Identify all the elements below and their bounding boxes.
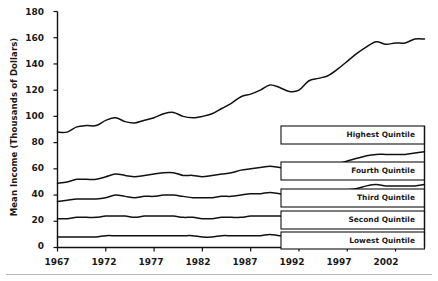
y-tick-label-160: 160 (14, 34, 44, 43)
x-tick-label-2002: 2002 (366, 258, 406, 267)
x-tick-label-1967: 1967 (37, 258, 77, 267)
y-tick-label-120: 120 (14, 86, 44, 95)
x-tick-label-1972: 1972 (84, 258, 124, 267)
footer-divider (6, 274, 432, 275)
x-tick-label-1992: 1992 (272, 258, 312, 267)
y-tick-label-0: 0 (14, 242, 44, 251)
income-quintiles-line-chart: Mean Income (Thousands of Dollars) 180 1… (0, 0, 438, 281)
series-label-lowest-quintile: Lowest Quintile (285, 236, 415, 245)
x-tick-label-1997: 1997 (319, 258, 359, 267)
x-tick-label-1987: 1987 (225, 258, 265, 267)
y-tick-label-80: 80 (14, 138, 44, 147)
y-tick-label-20: 20 (14, 216, 44, 225)
y-tick-label-100: 100 (14, 112, 44, 121)
x-tick-label-1982: 1982 (178, 258, 218, 267)
series-label-third-quintile: Third Quintile (285, 193, 415, 202)
series-label-fourth-quintile: Fourth Quintile (285, 166, 415, 175)
series-label-boxes (281, 126, 425, 249)
y-tick-label-60: 60 (14, 164, 44, 173)
x-tick-label-1977: 1977 (131, 258, 171, 267)
y-tick-label-180: 180 (14, 8, 44, 17)
series-line-highest-quintile (58, 39, 425, 133)
y-tick-label-140: 140 (14, 60, 44, 69)
y-tick-label-40: 40 (14, 190, 44, 199)
series-label-highest-quintile: Highest Quintile (285, 130, 415, 139)
series-label-second-quintile: Second Quintile (285, 215, 415, 224)
